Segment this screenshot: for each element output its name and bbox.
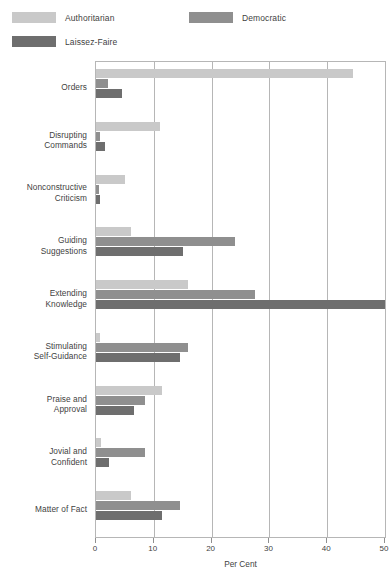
category-label-line: Nonconstructive xyxy=(0,182,87,193)
bar-group xyxy=(96,168,385,221)
category-label-line: Stimulating xyxy=(0,341,87,352)
bar xyxy=(96,353,180,362)
bar xyxy=(96,195,100,204)
bar xyxy=(96,185,99,194)
category-label: NonconstructiveCriticism xyxy=(0,182,87,203)
x-tick xyxy=(384,538,385,543)
category-label-line: Guiding xyxy=(0,235,87,246)
category-label-line: Jovial and xyxy=(0,446,87,457)
bar xyxy=(96,175,125,184)
category-label-line: Self-Guidance xyxy=(0,351,87,362)
bar xyxy=(96,290,255,299)
bar xyxy=(96,448,145,457)
bar xyxy=(96,227,131,236)
bar-group xyxy=(96,273,385,326)
x-tick xyxy=(95,538,96,543)
bar-group xyxy=(96,62,385,115)
category-label-line: Praise and xyxy=(0,394,87,405)
x-tick xyxy=(268,538,269,543)
bar xyxy=(96,300,385,309)
category-label: GuidingSuggestions xyxy=(0,235,87,256)
category-label-line: Knowledge xyxy=(0,299,87,310)
bar xyxy=(96,142,105,151)
bar xyxy=(96,79,108,88)
category-label-line: Confident xyxy=(0,457,87,468)
category-label: Jovial andConfident xyxy=(0,446,87,467)
bar xyxy=(96,438,101,447)
bar xyxy=(96,406,134,415)
category-label: Matter of Fact xyxy=(0,504,87,515)
bar xyxy=(96,343,188,352)
bar xyxy=(96,491,131,500)
x-tick-label: 40 xyxy=(322,544,331,553)
category-label-line: Matter of Fact xyxy=(0,504,87,515)
bar xyxy=(96,511,162,520)
x-tick-label: 20 xyxy=(206,544,215,553)
bar xyxy=(96,458,109,467)
x-tick-label: 50 xyxy=(380,544,389,553)
x-tick-label: 0 xyxy=(93,544,97,553)
x-tick xyxy=(153,538,154,543)
category-label-line: Disrupting xyxy=(0,130,87,141)
bar xyxy=(96,122,160,131)
category-label-line: Suggestions xyxy=(0,246,87,257)
chart-x-axis-title: Per Cent xyxy=(95,559,386,569)
chart-plot-wrapper: OrdersDisruptingCommandsNonconstructiveC… xyxy=(0,0,390,573)
category-label-line: Commands xyxy=(0,140,87,151)
gridline-50 xyxy=(385,62,386,537)
bar-group xyxy=(96,115,385,168)
chart-plot-area xyxy=(95,61,386,538)
bar xyxy=(96,89,122,98)
category-label-line: Extending xyxy=(0,288,87,299)
category-label: DisruptingCommands xyxy=(0,130,87,151)
bar xyxy=(96,132,100,141)
bar-group xyxy=(96,484,385,537)
bar-group xyxy=(96,220,385,273)
category-label: StimulatingSelf-Guidance xyxy=(0,341,87,362)
bar xyxy=(96,237,235,246)
category-label-line: Criticism xyxy=(0,193,87,204)
category-label: ExtendingKnowledge xyxy=(0,288,87,309)
bar xyxy=(96,247,183,256)
bar xyxy=(96,333,100,342)
x-tick xyxy=(326,538,327,543)
category-label-line: Orders xyxy=(0,82,87,93)
category-label: Praise andApproval xyxy=(0,394,87,415)
bar xyxy=(96,386,162,395)
bar-group xyxy=(96,379,385,432)
category-label: Orders xyxy=(0,82,87,93)
x-tick-label: 30 xyxy=(264,544,273,553)
category-label-line: Approval xyxy=(0,404,87,415)
bar xyxy=(96,280,188,289)
x-tick-label: 10 xyxy=(148,544,157,553)
bar-group xyxy=(96,326,385,379)
x-tick xyxy=(211,538,212,543)
bar xyxy=(96,396,145,405)
bar-group xyxy=(96,431,385,484)
bar xyxy=(96,69,353,78)
bar xyxy=(96,501,180,510)
